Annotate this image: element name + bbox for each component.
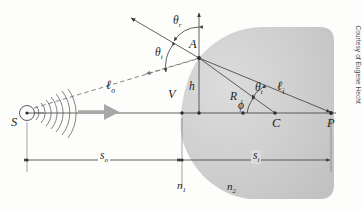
optics-figure: S A V C P h R ϕ θr θi θt ℓo ℓi n1 n2 so … [0, 0, 363, 212]
n2-subscript: 2 [233, 187, 236, 194]
label-point-a: A [189, 38, 197, 51]
figure-credit: Courtesy of Eugene Hecht [355, 25, 362, 104]
wavefront-arcs [36, 89, 76, 138]
label-angle-theta-t: θt [255, 82, 263, 96]
label-height-h: h [189, 81, 195, 93]
vertex-dot [180, 111, 183, 114]
label-image-point-p: P [327, 117, 335, 130]
label-angle-theta-r: θr [173, 15, 181, 29]
label-n1: n1 [177, 180, 186, 194]
label-object-distance-so: so [98, 150, 110, 164]
label-angle-phi: ϕ [238, 100, 244, 112]
axis-foot-dot [197, 111, 200, 114]
label-source-s: S [11, 116, 17, 129]
label-image-distance-si: si [251, 150, 261, 164]
center-c-dot [273, 111, 276, 114]
label-center-c: C [272, 117, 280, 130]
si-subscript: i [257, 156, 259, 164]
ell-o-subscript: o [111, 86, 115, 95]
label-n2: n2 [227, 181, 236, 195]
label-vertex-v: V [168, 88, 176, 101]
theta-t-subscript: t [261, 88, 263, 96]
point-a-dot [197, 56, 201, 60]
n1-subscript: 1 [183, 186, 186, 193]
label-ell-o: ℓo [106, 79, 115, 94]
so-subscript: o [104, 156, 108, 164]
theta-i-subscript: i [161, 53, 163, 61]
image-point-p-dot [329, 111, 333, 115]
ell-i-subscript: i [282, 87, 284, 96]
label-angle-theta-i: θi [155, 47, 163, 61]
label-ell-i: ℓi [277, 80, 284, 95]
radius-origin-dot [241, 111, 244, 114]
label-radius-R: R [230, 91, 237, 103]
theta-r-subscript: r [179, 21, 182, 29]
